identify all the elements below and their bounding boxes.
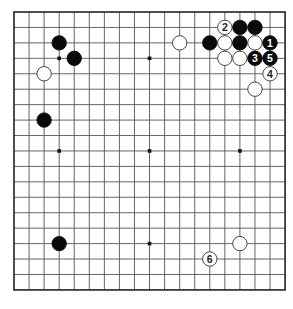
move-number-label: 6 [207,253,213,265]
white-stone-icon [218,36,232,50]
black-stone-icon [37,113,51,127]
move-number-label: 5 [267,52,273,64]
black-stone [248,20,262,34]
white-stone-icon [233,236,247,250]
go-board: 213546 [0,0,293,309]
black-stone-icon [248,20,262,34]
black-stone [233,36,247,50]
move-number-label: 2 [222,21,228,33]
white-stone [248,82,262,96]
white-stone-icon [248,36,262,50]
black-stone-icon [67,51,81,65]
black-stone: 3 [248,51,262,65]
black-stone: 5 [263,51,277,65]
white-stone: 6 [203,252,217,266]
white-stone [233,51,247,65]
white-stone [172,36,186,50]
black-stone [52,36,66,50]
star-point [57,57,61,61]
white-stone [233,236,247,250]
move-number-label: 3 [252,52,258,64]
move-number-label: 4 [267,68,273,80]
white-stone-icon [218,51,232,65]
white-stone [218,51,232,65]
white-stone-icon [37,67,51,81]
white-stone: 4 [263,67,277,81]
white-stone-icon [172,36,186,50]
black-stone [67,51,81,65]
white-stone-icon [233,51,247,65]
black-stone-icon [52,36,66,50]
black-stone [233,20,247,34]
star-point [148,149,152,153]
white-stone-icon [248,82,262,96]
move-number-label: 1 [267,37,273,49]
black-stone [203,36,217,50]
black-stone-icon [203,36,217,50]
black-stone [52,236,66,250]
white-stone: 2 [218,20,232,34]
black-stone-icon [233,36,247,50]
black-stone-icon [52,236,66,250]
stones-layer: 213546 [37,20,277,266]
white-stone [37,67,51,81]
black-stone: 1 [263,36,277,50]
white-stone [218,36,232,50]
white-stone [248,36,262,50]
black-stone [37,113,51,127]
black-stone-icon [233,20,247,34]
star-point [57,149,61,153]
star-point [148,242,152,246]
star-point [238,149,242,153]
star-point [148,57,152,61]
